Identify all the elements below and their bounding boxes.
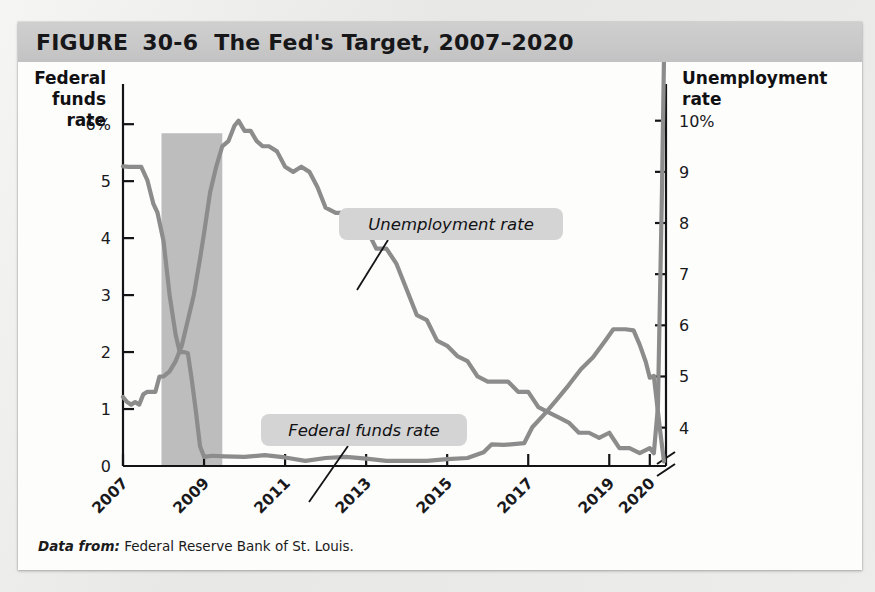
right-axis-title: Unemployment (682, 68, 827, 88)
source-note: Data from: Federal Reserve Bank of St. L… (38, 538, 354, 554)
figure-title-text: The Fed's Target, 2007–2020 (214, 30, 573, 55)
right-axis-tick-label: 9 (679, 163, 689, 182)
x-axis-year-label: 2020 (615, 474, 658, 517)
left-axis-tick-label: 4 (101, 229, 111, 248)
right-axis-tick-label: 4 (679, 419, 689, 438)
fed-target-line-chart: 6%54321010%98765420072009201120132015201… (18, 62, 862, 522)
unemployment-rate-callout-label: Unemployment rate (368, 215, 534, 234)
x-axis-year-label: 2019 (575, 474, 618, 517)
left-axis-tick-label: 1 (101, 400, 111, 419)
x-axis-year-label: 2007 (89, 474, 132, 517)
right-axis-title: rate (682, 89, 722, 109)
source-text: Federal Reserve Bank of St. Louis. (124, 538, 354, 554)
x-axis-year-label: 2017 (494, 474, 537, 517)
left-axis-title: rate (66, 110, 106, 130)
left-axis-tick-label: 3 (101, 286, 111, 305)
x-axis-year-label: 2013 (332, 474, 375, 517)
right-axis-tick-label: 5 (679, 367, 689, 386)
source-label: Data from: (38, 538, 120, 554)
left-axis-title: Federal (34, 68, 106, 88)
right-axis-tick-label: 10% (679, 112, 715, 131)
right-axis-tick-label: 8 (679, 214, 689, 233)
figure-label: FIGURE (36, 30, 128, 55)
unemployment-rate-callout-leader-line (357, 240, 388, 290)
figure-number: 30-6 (142, 30, 198, 55)
figure-title-banner: FIGURE30-6The Fed's Target, 2007–2020 (18, 22, 862, 62)
chart-plot-area: 6%54321010%98765420072009201120132015201… (18, 62, 862, 522)
x-axis-year-label: 2011 (251, 474, 294, 517)
right-axis-tick-label: 6 (679, 316, 689, 335)
x-axis-year-label: 2015 (413, 474, 456, 517)
left-axis-tick-label: 2 (101, 343, 111, 362)
right-axis-tick-label: 7 (679, 265, 689, 284)
left-axis-tick-label: 0 (101, 457, 111, 476)
left-axis-title: funds (52, 89, 106, 109)
left-axis-tick-label: 5 (101, 172, 111, 191)
federal-funds-rate-callout-label: Federal funds rate (288, 421, 440, 440)
figure-card: FIGURE30-6The Fed's Target, 2007–2020 6%… (18, 22, 862, 570)
x-axis-year-label: 2009 (170, 474, 213, 517)
page-title: FIGURE30-6The Fed's Target, 2007–2020 (18, 30, 574, 55)
